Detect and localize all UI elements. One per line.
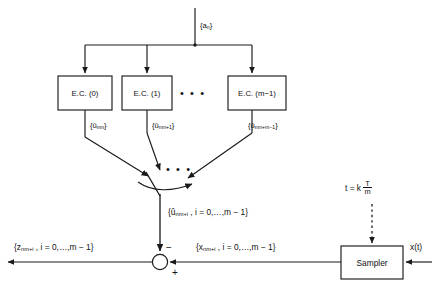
commutator-sweep-arrow	[138, 182, 192, 190]
plus-sign-label: +	[172, 268, 178, 278]
input-label: {an}	[200, 22, 212, 30]
encoder-label-0[interactable]: E.C. (0)	[58, 76, 112, 110]
commutator-wiper	[146, 172, 160, 196]
minus-sign-label: −	[166, 243, 172, 253]
converge-arm-1	[147, 133, 160, 170]
ellipsis-above-commutator: • • •	[166, 164, 192, 175]
summing-junction-circle	[152, 254, 167, 269]
converge-arm-0	[85, 137, 148, 176]
encoder-label-m-1[interactable]: E.C. (m−1)	[228, 76, 286, 110]
encoder-label-1[interactable]: E.C. (1)	[122, 76, 172, 110]
encoder-output-label-m-1: {ûnm+m−1}	[248, 122, 278, 130]
error-output-label: {znm+i , i = 0,…,m − 1}	[14, 243, 94, 253]
sampled-signal-label: {xnm+i , i = 0,…,m − 1}	[196, 243, 276, 253]
encoder-output-label-1: {ûnm+1}	[152, 122, 174, 130]
clock-expression-label: t = k Tm	[345, 180, 372, 196]
sampler-label[interactable]: Sampler	[341, 246, 403, 279]
converge-arm-m-1	[188, 133, 252, 178]
ellipsis-between-encoders: • • •	[180, 88, 206, 99]
analog-input-label: x(t)	[410, 243, 422, 251]
clock-numerator: T	[363, 180, 371, 187]
commutator-output-label: {ûnm+i , i = 0,…,m − 1}	[168, 208, 248, 218]
clock-denominator: m	[363, 187, 371, 195]
encoder-output-label-0: {ûnm}	[90, 122, 106, 130]
